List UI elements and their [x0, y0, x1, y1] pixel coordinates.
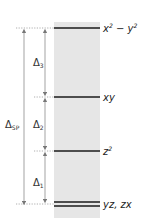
level-label-yz-zx: yz, zx: [102, 199, 132, 210]
level-label-z2: z2: [102, 145, 112, 157]
delta-2-label: Δ2: [33, 119, 44, 131]
delta-3-label: Δ3: [33, 57, 44, 69]
level-label-x2-y2: x2 − y2: [102, 22, 137, 34]
delta-sp-label: ΔSP: [5, 119, 20, 131]
energy-band: [54, 22, 100, 218]
level-label-xy: xy: [102, 92, 116, 103]
delta-1-label: Δ1: [33, 177, 44, 189]
energy-level-diagram: Δ3 Δ2 Δ1 ΔSP x2 − y2 xy z2 yz, zx: [0, 0, 145, 221]
